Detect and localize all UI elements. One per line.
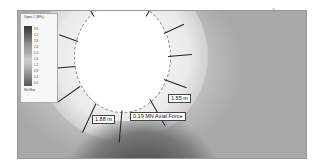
x-axis: [17, 158, 305, 166]
y-axis: [0, 10, 16, 157]
contour-plot: Sigma 1 (MPa) 3.63.2 2.82.4 2.01.6 1.20.…: [17, 10, 307, 159]
bolt-length-label-left: 1.88 m: [92, 115, 115, 124]
axis-orientation-icon: ⁘: [271, 6, 276, 13]
stress-concentration-floor: [68, 121, 218, 159]
legend-ticks: 3.63.2 2.82.4 2.01.6 1.20.8 0.40.0: [34, 26, 38, 86]
bolt-length-label-right: 1.55 m: [168, 94, 191, 103]
legend: Sigma 1 (MPa) 3.63.2 2.82.4 2.01.6 1.20.…: [20, 13, 58, 103]
legend-footer: Min/Max: [24, 88, 35, 92]
legend-title: Sigma 1 (MPa): [24, 16, 44, 19]
legend-colorbar: [24, 26, 32, 86]
axial-force-label: 0.19 MN Axial Force: [130, 112, 186, 121]
